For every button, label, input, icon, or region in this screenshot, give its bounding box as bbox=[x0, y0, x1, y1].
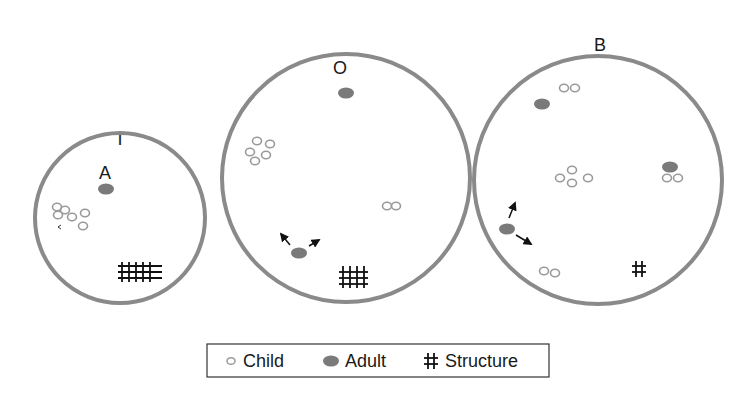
child-icon bbox=[568, 166, 577, 174]
child-icon bbox=[246, 148, 255, 156]
adult-icon bbox=[534, 99, 550, 110]
arrow-icon bbox=[509, 203, 515, 218]
child-icon bbox=[383, 202, 392, 210]
arrow-icon bbox=[516, 235, 531, 244]
child-group bbox=[540, 84, 683, 277]
child-icon bbox=[54, 211, 63, 219]
adult-icon bbox=[662, 162, 678, 173]
small-mark-icon bbox=[58, 225, 61, 229]
adult-icon bbox=[291, 248, 307, 259]
panel-label-b: B bbox=[594, 35, 606, 55]
panel-b: B bbox=[474, 35, 722, 304]
adult-icon bbox=[338, 88, 354, 99]
child-icon bbox=[253, 137, 262, 145]
child-icon bbox=[540, 267, 549, 275]
territory-circle-b bbox=[474, 56, 722, 304]
child-icon bbox=[251, 157, 260, 165]
legend-label-structure: Structure bbox=[445, 351, 518, 371]
child-icon bbox=[674, 174, 683, 182]
child-icon bbox=[392, 202, 401, 210]
child-icon bbox=[266, 140, 275, 148]
child-icon bbox=[79, 222, 88, 230]
adult-label-a: A bbox=[99, 163, 111, 183]
child-group bbox=[53, 203, 90, 230]
structure-icon bbox=[118, 262, 162, 282]
child-icon bbox=[571, 84, 580, 92]
legend-label-child: Child bbox=[243, 351, 284, 371]
child-icon bbox=[68, 213, 77, 221]
structure-icon bbox=[339, 266, 368, 288]
panel-label-o: O bbox=[333, 58, 347, 78]
panel-o: O bbox=[222, 54, 470, 302]
panel-i: I A bbox=[35, 129, 205, 303]
child-icon bbox=[551, 269, 560, 277]
adult-icon bbox=[323, 356, 339, 367]
structure-icon bbox=[632, 261, 646, 277]
child-icon bbox=[81, 209, 90, 217]
child-icon bbox=[663, 174, 672, 182]
child-icon bbox=[560, 84, 569, 92]
arrow-icon bbox=[281, 234, 290, 245]
child-group bbox=[246, 137, 401, 210]
child-icon bbox=[556, 174, 565, 182]
child-icon bbox=[584, 174, 593, 182]
arrow-icon bbox=[309, 240, 319, 246]
adult-icon bbox=[499, 224, 515, 235]
adult-icon bbox=[98, 184, 114, 195]
child-icon bbox=[568, 179, 577, 187]
legend: Child Adult Structure bbox=[207, 344, 549, 377]
diagram-canvas: I A O bbox=[0, 0, 751, 399]
legend-label-adult: Adult bbox=[345, 351, 386, 371]
child-icon bbox=[262, 151, 271, 159]
